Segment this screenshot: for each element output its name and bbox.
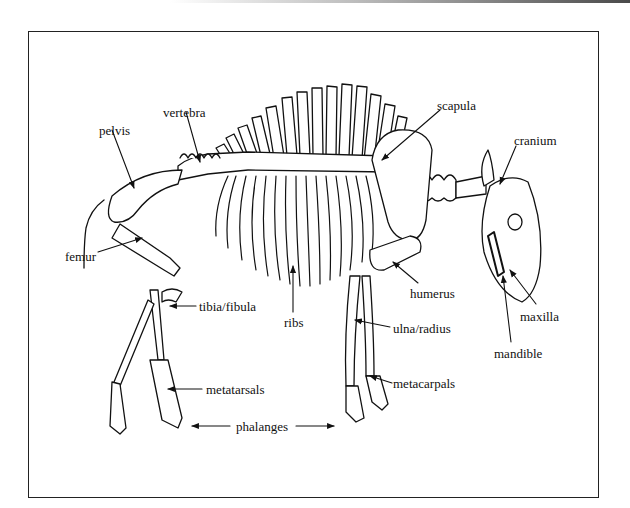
vertebral-column [178,152,486,201]
label-phalanges: phalanges [236,420,288,433]
hind-leg-left [110,224,182,434]
label-maxilla: maxilla [520,310,559,323]
label-pelvis: pelvis [99,124,130,137]
label-tibia-fibula: tibia/fibula [199,300,256,313]
label-ribs: ribs [284,316,304,329]
label-femur: femur [65,250,96,263]
rib-cage [216,176,373,286]
label-mandible: mandible [494,347,542,360]
bison-skull [482,150,541,302]
label-humerus: humerus [410,287,455,300]
label-ulna-radius: ulna/radius [393,322,451,335]
scapula-bone [372,130,432,240]
label-vertebra: vertebra [163,106,206,119]
label-cranium: cranium [514,134,557,147]
label-metatarsals: metatarsals [206,383,264,396]
label-metacarpals: metacarpals [393,377,455,390]
label-scapula: scapula [437,99,476,112]
